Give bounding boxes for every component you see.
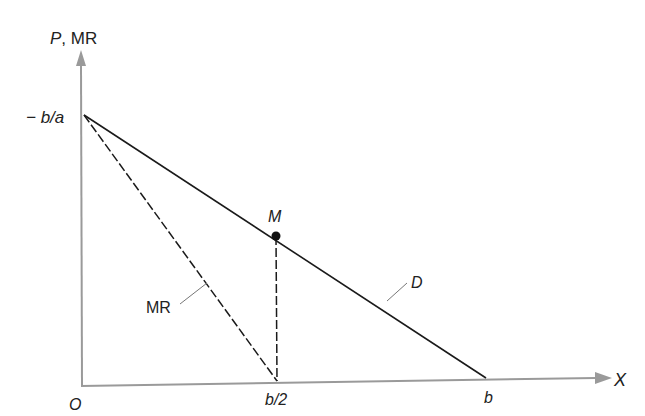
midpoint-label: b/2 — [265, 391, 287, 408]
demand-label: D — [411, 274, 423, 291]
x-intercept-label: b — [484, 389, 493, 406]
x-axis-arrow-icon — [595, 372, 612, 384]
d-leader — [387, 283, 407, 301]
y-axis — [81, 64, 82, 386]
x-axis-label: X — [613, 370, 627, 390]
origin-label: O — [69, 396, 81, 413]
intercept-label: − b/a — [26, 108, 64, 127]
midpoint-dropline — [276, 236, 277, 381]
mr-label: MR — [146, 299, 171, 316]
mr-line — [84, 115, 277, 381]
demand-line — [84, 115, 486, 378]
y-axis-arrow-icon — [76, 50, 86, 66]
point-m — [272, 232, 281, 241]
x-axis — [81, 378, 596, 386]
y-axis-label: P, MR — [50, 29, 97, 48]
point-m-label: M — [268, 208, 282, 225]
mr-leader — [180, 283, 207, 304]
diagram-canvas: P, MR − b/a M D MR O b/2 b X — [0, 0, 645, 416]
